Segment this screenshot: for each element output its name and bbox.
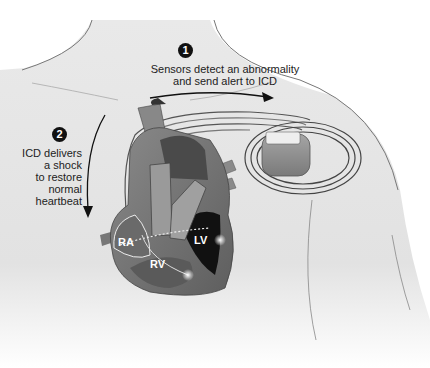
- icd-device: [262, 132, 310, 176]
- step-2-line-4: normal: [14, 183, 82, 195]
- step-2-line-2: a shock: [14, 159, 82, 171]
- step-2-line-3: to restore: [14, 171, 82, 183]
- step-2-badge: 2: [52, 127, 67, 142]
- step-2-text: ICD delivers a shock to restore normal h…: [14, 147, 82, 207]
- label-ra: RA: [118, 236, 134, 248]
- shock-spark-rv: [182, 269, 194, 281]
- shock-spark-lv: [214, 234, 226, 246]
- step-2-line-5: heartbeat: [14, 195, 82, 207]
- step-1-badge: 1: [178, 43, 193, 58]
- step-1-text: Sensors detect an abnormality and send a…: [135, 63, 315, 87]
- label-rv: RV: [150, 258, 165, 270]
- step-2-line-1: ICD delivers: [14, 147, 82, 159]
- step-1-line-1: Sensors detect an abnormality: [135, 63, 315, 75]
- step-1-line-2: and send alert to ICD: [135, 75, 315, 87]
- label-lv: LV: [194, 234, 207, 246]
- icd-diagram: 1 Sensors detect an abnormality and send…: [0, 0, 430, 368]
